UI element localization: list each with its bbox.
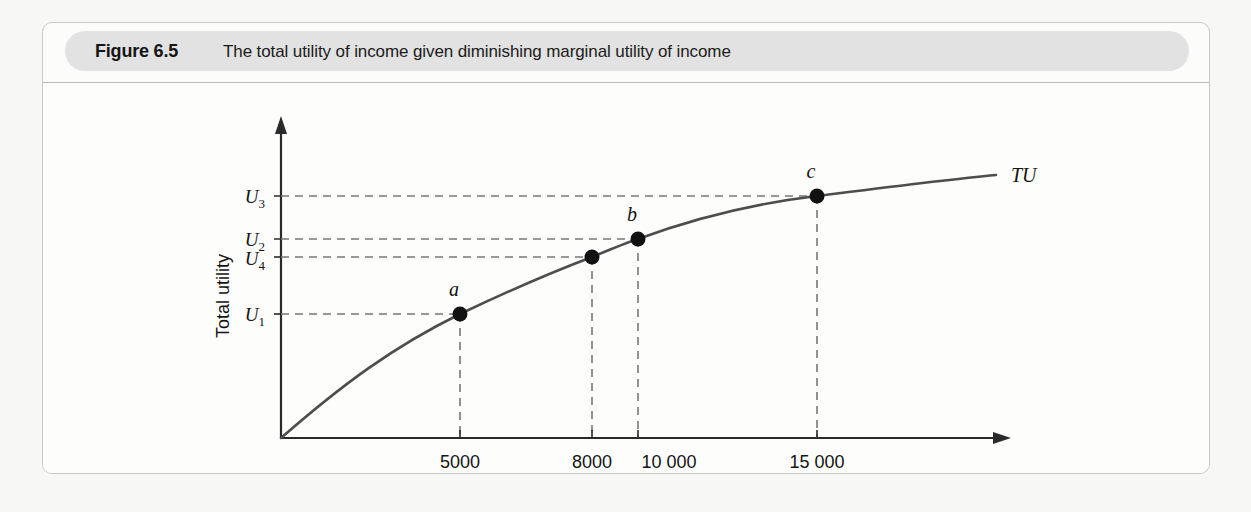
total-utility-chart: a b c TU U3 U2 U4 U1 5000 8000 10 000 15…: [43, 84, 1210, 474]
data-point-label-c: c: [807, 160, 816, 182]
figure-frame: Figure 6.5 The total utility of income g…: [42, 22, 1210, 474]
x-axis-label-10000: 10 000: [641, 452, 696, 472]
figure-title: The total utility of income given dimini…: [223, 42, 731, 62]
y-axis-label-u3: U3: [245, 186, 265, 211]
y-axis-arrowhead: [275, 116, 287, 134]
chart-plot-area: a b c TU U3 U2 U4 U1 5000 8000 10 000 15…: [43, 84, 1209, 474]
data-point-u4[interactable]: [585, 250, 600, 265]
figure-number-label: Figure 6.5: [95, 41, 178, 62]
data-point-a[interactable]: [453, 307, 468, 322]
x-axis-label-8000: 8000: [572, 452, 612, 472]
data-point-label-b: b: [627, 203, 637, 225]
data-point-c[interactable]: [810, 189, 825, 204]
data-point-label-a: a: [449, 278, 459, 300]
chart-axes: [275, 116, 1011, 444]
x-axis-label-15000: 15 000: [789, 452, 844, 472]
y-axis-label-u1: U1: [245, 304, 265, 329]
figure-header: Figure 6.5 The total utility of income g…: [43, 23, 1209, 83]
curve-label-tu: TU: [1011, 164, 1038, 186]
chart-guide-lines: [281, 196, 817, 438]
x-axis-arrowhead: [993, 432, 1011, 444]
x-axis-ticks: [460, 430, 817, 438]
data-point-b[interactable]: [631, 232, 646, 247]
x-axis-label-5000: 5000: [440, 452, 480, 472]
y-axis-title: Total utility: [213, 254, 233, 338]
